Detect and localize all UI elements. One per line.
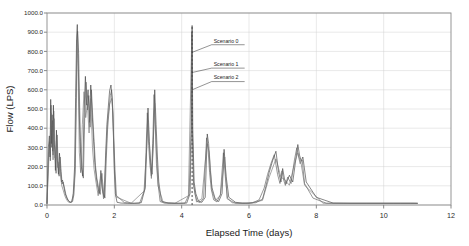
x-tick-label: 4	[180, 211, 184, 220]
annotation-label: Scenario 1	[214, 61, 239, 67]
x-tick-label: 6	[247, 211, 251, 220]
y-tick-label: 400.0	[28, 124, 44, 131]
x-axis-title: Elapsed Time (days)	[206, 227, 293, 238]
flow-hydrograph-chart: 0.0100.0200.0300.0400.0500.0600.0700.080…	[0, 0, 469, 246]
x-tick-label: 10	[380, 211, 388, 220]
y-axis-title: Flow (LPS)	[4, 86, 15, 133]
y-tick-label: 200.0	[28, 163, 44, 170]
y-tick-label: 300.0	[28, 144, 44, 151]
x-tick-label: 2	[112, 211, 116, 220]
y-tick-label: 500.0	[28, 105, 44, 112]
y-tick-label: 1000.0	[24, 9, 43, 16]
y-tick-label: 600.0	[28, 86, 44, 93]
y-tick-label: 900.0	[28, 28, 44, 35]
y-tick-label: 800.0	[28, 48, 44, 55]
y-tick-label: 100.0	[28, 182, 44, 189]
x-tick-label: 0	[45, 211, 49, 220]
x-tick-label: 8	[314, 211, 318, 220]
y-tick-label: 700.0	[28, 67, 44, 74]
annotation-label: Scenario 0	[214, 38, 239, 44]
annotation-label: Scenario 2	[214, 74, 239, 80]
chart-canvas: 0.0100.0200.0300.0400.0500.0600.0700.080…	[0, 0, 469, 246]
y-tick-label: 0.0	[34, 201, 43, 208]
x-tick-label: 12	[447, 211, 455, 220]
